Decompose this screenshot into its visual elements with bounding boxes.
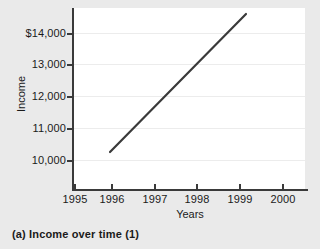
x-tick-2000 (282, 184, 284, 189)
x-tick-1996 (111, 184, 113, 189)
x-tick-label-1998: 1998 (174, 193, 220, 205)
y-axis-line (72, 8, 74, 191)
income-over-time-figure: $14,000 13,000 12,000 11,000 10,000 1995… (0, 0, 320, 249)
gridline-10000 (74, 160, 305, 161)
y-tick-10000 (67, 160, 72, 162)
x-tick-1998 (196, 184, 198, 189)
y-tick-labels: $14,000 13,000 12,000 11,000 10,000 (0, 0, 66, 200)
y-tick-11000 (67, 128, 72, 130)
x-tick-label-1996: 1996 (89, 193, 135, 205)
y-tick-13000 (67, 64, 72, 66)
x-tick-label-1999: 1999 (217, 193, 263, 205)
x-tick-label-1997: 1997 (132, 193, 178, 205)
x-tick-label-2000: 2000 (260, 193, 306, 205)
plot-area (74, 8, 305, 190)
gridline-14000 (74, 33, 305, 34)
y-tick-12000 (67, 96, 72, 98)
x-tick-1999 (239, 184, 241, 189)
y-tick-label-14000: $14,000 (4, 27, 66, 39)
y-tick-label-10000: 10,000 (4, 154, 66, 166)
y-tick-label-12000: 12,000 (4, 90, 66, 102)
y-tick-label-13000: 13,000 (4, 58, 66, 70)
y-tick-14000 (67, 33, 72, 35)
x-tick-1995 (74, 184, 76, 189)
figure-caption: (a) Income over time (1) (12, 228, 139, 240)
gridline-13000 (74, 64, 305, 65)
gridline-11000 (74, 128, 305, 129)
y-axis-title: Income (15, 64, 27, 124)
x-axis-line (72, 189, 308, 191)
x-tick-1997 (154, 184, 156, 189)
x-axis-title: Years (72, 208, 308, 220)
y-tick-label-11000: 11,000 (4, 122, 66, 134)
gridline-12000 (74, 96, 305, 97)
